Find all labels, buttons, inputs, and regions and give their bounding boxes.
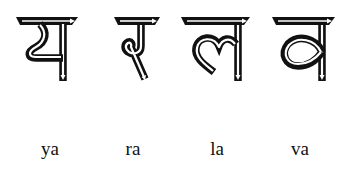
letter-va-glyph <box>272 17 335 81</box>
letter-ra-glyph <box>114 17 160 80</box>
letter-ya-glyph <box>16 17 78 81</box>
devanagari-letters <box>0 0 354 100</box>
label-ra: ra <box>126 138 141 160</box>
letter-la-glyph <box>181 17 250 81</box>
label-la: la <box>210 138 224 160</box>
label-va: va <box>291 138 309 160</box>
label-ya: ya <box>41 138 59 160</box>
